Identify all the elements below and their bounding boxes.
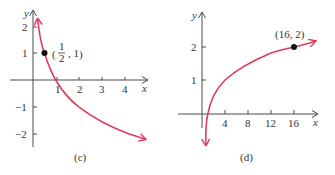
svg-text:(: ( [52,48,56,61]
x-tick-label: 4 [222,117,228,129]
y-tick-label: 2 [22,21,28,33]
curve-d [206,41,316,146]
point-annotation-c: ( 1 2 , 1 ) [52,40,83,64]
svg-text:, 1: , 1 [68,47,79,59]
y-tick-label: 1 [191,74,197,86]
point-annotation-d: (16, 2) [275,28,305,41]
y-tick-label: −2 [15,128,27,140]
x-tick-label: 3 [99,83,105,95]
svg-text:1: 1 [59,40,65,52]
caption-c: (c) [74,151,87,164]
x-axis-label: x [312,116,318,128]
point-marker [42,50,48,56]
svg-text:): ) [79,48,83,61]
point-marker [291,44,297,50]
svg-text:2: 2 [59,52,65,64]
y-tick-label: −1 [15,101,27,113]
x-tick-label: 2 [77,83,83,95]
y-tick-label: 1 [22,47,28,59]
caption-d: (d) [240,151,253,164]
chart-c: 1 2 3 4 2 1 −1 −2 x y ( 1 2 , 1 ) (c) [10,7,148,164]
y-axis-label: y [23,7,29,19]
x-tick-label: 4 [122,83,128,95]
x-tick-label: 16 [288,117,300,129]
x-tick-label: 12 [265,117,276,129]
y-tick-label: 2 [191,41,197,53]
figure: 1 2 3 4 2 1 −1 −2 x y ( 1 2 , 1 ) (c) [0,0,335,175]
chart-d: 4 8 12 16 1 2 x y (16, 2) (d) [178,9,318,164]
curve-c [38,18,147,140]
x-axis-label: x [141,82,147,94]
y-axis-label: y [191,9,197,21]
x-tick-label: 8 [245,117,251,129]
